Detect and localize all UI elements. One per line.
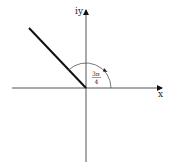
- ray-3pi-4: [29, 28, 86, 88]
- complex-plane-diagram: iy x 3π 4: [0, 0, 172, 165]
- y-axis-label: iy: [75, 6, 84, 16]
- arc-arrow-icon: [103, 68, 108, 72]
- angle-denominator: 4: [95, 78, 99, 85]
- angle-numerator: 3π: [92, 70, 100, 77]
- x-axis-label: x: [158, 89, 163, 99]
